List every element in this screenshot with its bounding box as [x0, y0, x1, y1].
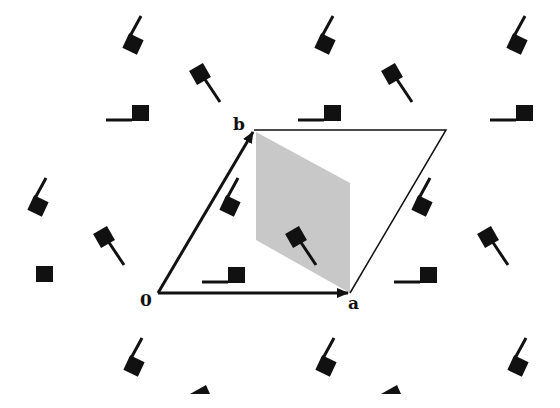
vector-b-label: b [233, 114, 245, 134]
vector-a-label: a [348, 293, 359, 313]
lattice-diagram: 0 a b [0, 0, 560, 408]
shaded-cell [256, 132, 350, 293]
origin-label: 0 [140, 290, 152, 310]
